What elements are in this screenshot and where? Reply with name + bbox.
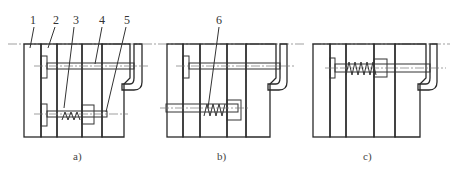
spring-icon — [204, 104, 225, 116]
caption-a: a) — [73, 150, 82, 163]
plate-1 — [167, 44, 183, 137]
plate-2 — [41, 44, 57, 137]
pin-head-top — [183, 56, 189, 78]
plate-1 — [24, 44, 41, 137]
panel-c: c) — [312, 44, 450, 163]
mold-ejector-diagram: 1 2 3 4 5 a) 6 b) — [0, 0, 454, 176]
plate-4 — [374, 44, 395, 137]
plate-2 — [183, 44, 200, 137]
cavity — [57, 44, 82, 137]
cavity — [200, 44, 227, 137]
label-6: 6 — [216, 13, 222, 27]
label-5: 5 — [124, 13, 130, 27]
pin-head-bottom — [41, 104, 47, 126]
spring-icon — [62, 112, 80, 120]
label-2: 2 — [53, 13, 59, 27]
panel-a: 1 2 3 4 5 a) — [8, 13, 160, 163]
pin-head-top — [41, 56, 47, 78]
plate-4 — [82, 44, 102, 137]
label-1: 1 — [30, 13, 36, 27]
bushing — [82, 105, 94, 124]
plate-1 — [313, 44, 330, 137]
caption-b: b) — [217, 150, 227, 163]
panel-b: 6 b) — [160, 13, 304, 163]
label-3: 3 — [73, 13, 79, 27]
plate-4 — [227, 44, 246, 137]
bushing — [227, 100, 241, 120]
cavity — [346, 44, 374, 137]
label-4: 4 — [99, 13, 105, 27]
caption-c: c) — [363, 150, 372, 163]
